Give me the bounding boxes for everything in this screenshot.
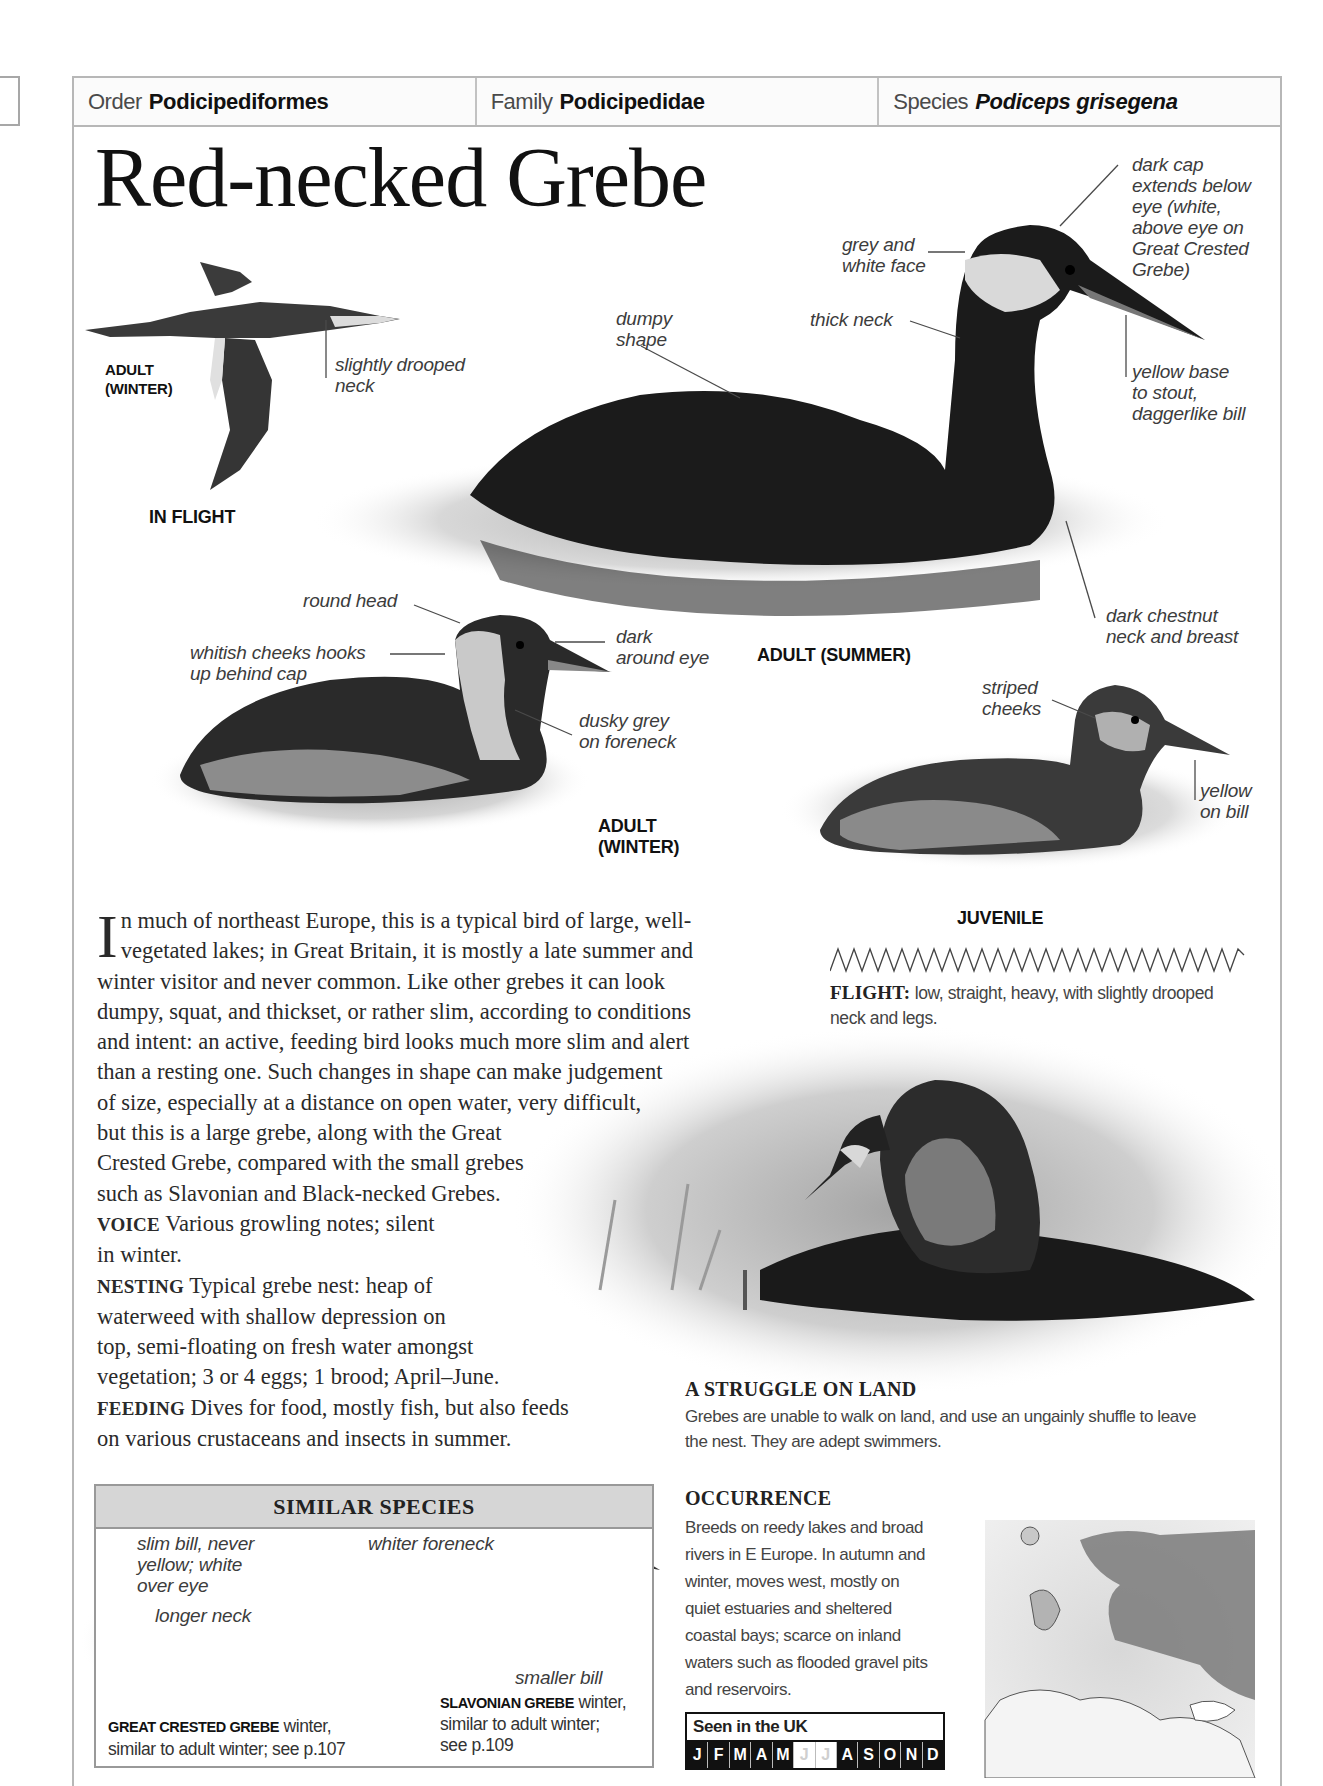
seen-in-uk-label: Seen in the UK bbox=[685, 1712, 945, 1740]
month-oct: O bbox=[880, 1742, 901, 1768]
nesting-text: top, semi-floating on fresh water amongs… bbox=[97, 1332, 787, 1362]
feeding-label: FEEDING bbox=[97, 1398, 185, 1419]
annotation-dark-chestnut: dark chestnut neck and breast bbox=[1106, 605, 1238, 647]
note-line: similar to adult winter; bbox=[440, 1714, 626, 1735]
nesting-label: NESTING bbox=[97, 1276, 184, 1297]
annotation-whiter-foreneck: whiter foreneck bbox=[368, 1533, 494, 1554]
occurrence-line: quiet estuaries and sheltered bbox=[685, 1595, 965, 1622]
flight-note-label: FLIGHT: bbox=[830, 982, 910, 1003]
annotation-dark-around-eye: dark around eye bbox=[616, 626, 709, 668]
adult-summer-caption: ADULT (SUMMER) bbox=[757, 645, 911, 666]
species-description: I n much of northeast Europe, this is a … bbox=[97, 906, 787, 1454]
occurrence-text: Breeds on reedy lakes and broad rivers i… bbox=[685, 1514, 965, 1703]
caption-line: ADULT bbox=[105, 360, 173, 379]
description-line: Crested Grebe, compared with the small g… bbox=[97, 1148, 787, 1178]
annotation-line: neck and breast bbox=[1106, 626, 1238, 647]
month-sep: S bbox=[858, 1742, 879, 1768]
annotation-line: grey and bbox=[842, 234, 926, 255]
taxonomy-bar: Order Podicipediformes Family Podicipedi… bbox=[72, 76, 1282, 127]
description-line: such as Slavonian and Black-necked Grebe… bbox=[97, 1179, 787, 1209]
occurrence-line: and reservoirs. bbox=[685, 1676, 965, 1703]
annotation-dumpy-shape: dumpy shape bbox=[616, 308, 672, 350]
family-value: Podicipedidae bbox=[559, 89, 704, 115]
note-line: GREAT CRESTED GREBE winter, bbox=[108, 1715, 345, 1738]
feeding-section: FEEDING Dives for food, mostly fish, but… bbox=[97, 1393, 787, 1424]
nesting-section: NESTING Typical grebe nest: heap of bbox=[97, 1271, 787, 1302]
annotation-line: extends below bbox=[1132, 175, 1251, 196]
month-aug: A bbox=[837, 1742, 858, 1768]
annotation-smaller-bill: smaller bill bbox=[515, 1667, 602, 1688]
annotation-line: slim bill, never bbox=[137, 1533, 254, 1554]
voice-section: VOICE Various growling notes; silent bbox=[97, 1209, 787, 1240]
caption-line: Grebes are unable to walk on land, and u… bbox=[685, 1404, 1285, 1429]
annotation-grey-white-face: grey and white face bbox=[842, 234, 926, 276]
order-value: Podicipediformes bbox=[149, 89, 329, 115]
flight-adult-winter-caption: ADULT (WINTER) bbox=[105, 360, 173, 398]
month-apr: A bbox=[751, 1742, 772, 1768]
month-strip: J F M A M J J A S O N D bbox=[685, 1740, 945, 1770]
caption-line: ADULT bbox=[598, 816, 679, 837]
annotation-line: eye (white, bbox=[1132, 196, 1251, 217]
description-line: but this is a large grebe, along with th… bbox=[97, 1118, 787, 1148]
annotation-line: dark bbox=[616, 626, 709, 647]
annotation-line: whiter foreneck bbox=[368, 1533, 494, 1554]
annotation-line: dusky grey bbox=[579, 710, 676, 731]
caption-line: (WINTER) bbox=[598, 837, 679, 858]
juvenile-caption: JUVENILE bbox=[957, 908, 1043, 929]
description-line: of size, especially at a distance on ope… bbox=[97, 1088, 787, 1118]
page-title: Red-necked Grebe bbox=[95, 136, 706, 220]
annotation-dark-cap: dark cap extends below eye (white, above… bbox=[1132, 154, 1251, 280]
nest-photo-title: A STRUGGLE ON LAND bbox=[685, 1378, 917, 1401]
annotation-line: striped bbox=[982, 677, 1041, 698]
annotation-line: neck bbox=[335, 375, 465, 396]
annotation-line: dumpy bbox=[616, 308, 672, 329]
annotation-line: thick neck bbox=[810, 309, 892, 330]
annotation-whitish-cheeks: whitish cheeks hooks up behind cap bbox=[190, 642, 366, 684]
annotation-line: smaller bill bbox=[515, 1667, 602, 1688]
nest-photo-caption: Grebes are unable to walk on land, and u… bbox=[685, 1404, 1285, 1454]
seen-in-uk-calendar: Seen in the UK J F M A M J J A S O N D bbox=[685, 1712, 945, 1776]
annotation-line: daggerlike bill bbox=[1132, 403, 1245, 424]
annotation-slim-bill: slim bill, never yellow; white over eye bbox=[137, 1533, 254, 1596]
month-nov: N bbox=[901, 1742, 922, 1768]
annotation-round-head: round head bbox=[303, 590, 397, 611]
annotation-drooped-neck: slightly drooped neck bbox=[335, 354, 465, 396]
order-label: Order bbox=[88, 89, 142, 115]
adjacent-page-tab bbox=[0, 76, 20, 126]
month-feb: F bbox=[708, 1742, 729, 1768]
nesting-text: Typical grebe nest: heap of bbox=[189, 1273, 432, 1298]
flight-note-text: low, straight, heavy, with slightly droo… bbox=[915, 983, 1214, 1003]
annotation-yellow-base-bill: yellow base to stout, daggerlike bill bbox=[1132, 361, 1245, 424]
annotation-line: around eye bbox=[616, 647, 709, 668]
description-line: winter visitor and never common. Like ot… bbox=[97, 967, 787, 997]
voice-text: Various growling notes; silent bbox=[165, 1211, 434, 1236]
drop-cap: I bbox=[97, 909, 118, 963]
flight-note-line: neck and legs. bbox=[830, 1006, 1280, 1031]
annotation-yellow-on-bill: yellow on bill bbox=[1200, 780, 1252, 822]
month-jan: J bbox=[687, 1742, 708, 1768]
slavonian-grebe-note: SLAVONIAN GREBE winter, similar to adult… bbox=[440, 1692, 626, 1756]
feeding-text: Dives for food, mostly fish, but also fe… bbox=[191, 1395, 569, 1420]
description-line: than a resting one. Such changes in shap… bbox=[97, 1057, 787, 1087]
note-line: see p.109 bbox=[440, 1735, 626, 1756]
annotation-line: over eye bbox=[137, 1575, 254, 1596]
taxonomy-species: Species Podiceps grisegena bbox=[879, 78, 1280, 125]
occurrence-line: waters such as flooded gravel pits bbox=[685, 1649, 965, 1676]
caption-line: the nest. They are adept swimmers. bbox=[685, 1429, 1285, 1454]
description-line: dumpy, squat, and thickset, or rather sl… bbox=[97, 997, 787, 1027]
annotation-line: longer neck bbox=[155, 1605, 251, 1626]
nesting-text: vegetation; 3 or 4 eggs; 1 brood; April–… bbox=[97, 1362, 787, 1392]
voice-label: VOICE bbox=[97, 1214, 160, 1235]
family-label: Family bbox=[491, 89, 553, 115]
note-text: winter, bbox=[578, 1692, 626, 1712]
month-may: M bbox=[773, 1742, 794, 1768]
flight-note-line: FLIGHT: low, straight, heavy, with sligh… bbox=[830, 980, 1280, 1006]
annotation-line: on foreneck bbox=[579, 731, 676, 752]
occurrence-title: OCCURRENCE bbox=[685, 1487, 831, 1510]
annotation-line: on bill bbox=[1200, 801, 1252, 822]
taxonomy-family: Family Podicipedidae bbox=[477, 78, 880, 125]
annotation-line: shape bbox=[616, 329, 672, 350]
note-line: SLAVONIAN GREBE winter, bbox=[440, 1692, 626, 1714]
annotation-longer-neck: longer neck bbox=[155, 1605, 251, 1626]
annotation-line: Grebe) bbox=[1132, 259, 1251, 280]
